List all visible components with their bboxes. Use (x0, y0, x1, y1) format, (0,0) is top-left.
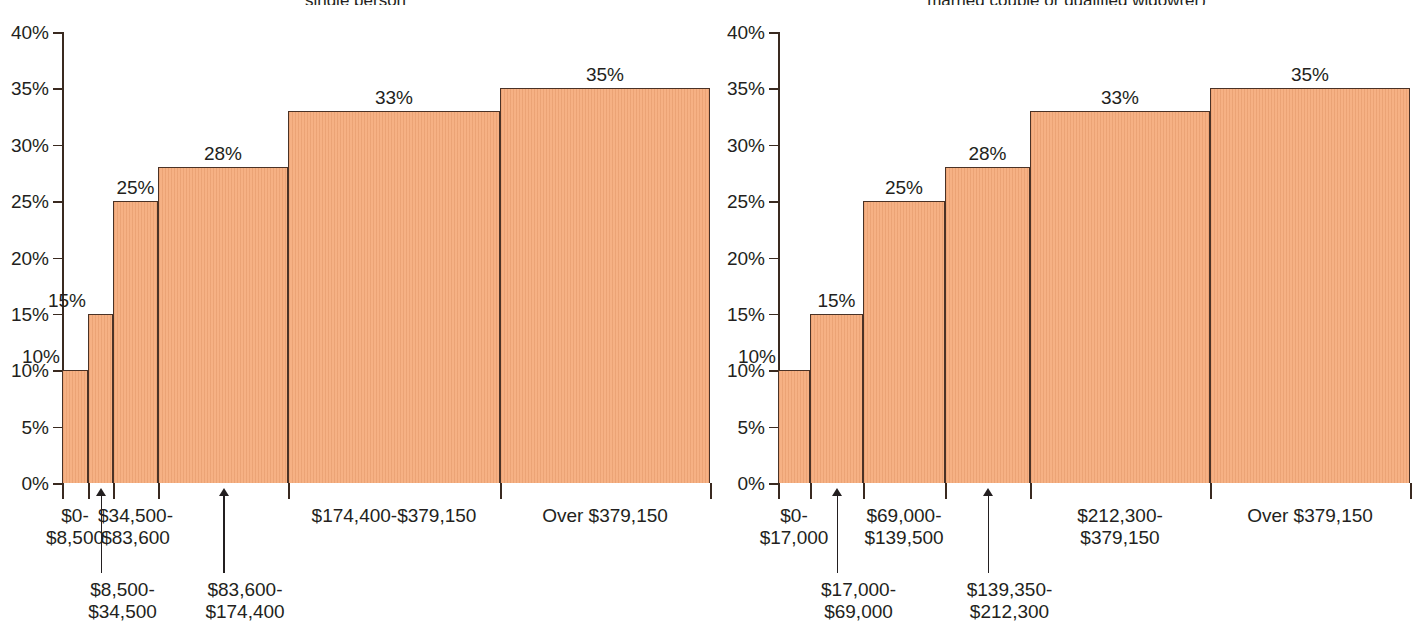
y-axis-tick (769, 427, 778, 429)
y-axis-label: 0% (22, 474, 49, 493)
y-axis-label: 35% (11, 79, 49, 98)
x-axis-tick (158, 483, 160, 499)
y-axis-label: 5% (738, 417, 765, 436)
category-label-line: $212,300- (1077, 505, 1163, 527)
y-axis-label: 0% (738, 474, 765, 493)
category-label-line: $174,400 (205, 601, 284, 623)
bar (945, 167, 1030, 483)
x-axis-category-label: $83,600-$174,400 (205, 579, 284, 624)
x-axis-tick (778, 483, 780, 499)
y-axis-label: 30% (727, 135, 765, 154)
bar (863, 201, 945, 483)
x-axis-tick (500, 483, 502, 499)
category-label-line: $174,400-$379,150 (312, 505, 477, 527)
y-axis-tick (53, 201, 62, 203)
x-axis-tick (1030, 483, 1032, 499)
y-axis-tick (769, 258, 778, 260)
bar (88, 314, 113, 483)
x-axis-category-label: $174,400-$379,150 (312, 505, 477, 527)
category-label-line: $69,000 (821, 601, 896, 623)
x-axis-tick (1210, 483, 1212, 499)
y-axis-tick (53, 258, 62, 260)
x-axis-tick (288, 483, 290, 499)
category-label-line: $379,150 (1077, 527, 1163, 549)
x-axis-category-label: $69,000-$139,500 (864, 505, 943, 550)
category-label-line: $17,000 (760, 527, 829, 549)
x-axis-category-label: $139,350-$212,300 (967, 579, 1053, 624)
category-label-line: $139,350- (967, 579, 1053, 601)
y-axis-tick (769, 370, 778, 372)
x-axis-category-label: Over $379,150 (1247, 505, 1373, 527)
label-leader-arrow-icon (223, 495, 225, 573)
y-axis-tick (769, 88, 778, 90)
bar-value-label: 25% (885, 178, 923, 197)
y-axis-label: 40% (11, 23, 49, 42)
y-axis-tick (53, 427, 62, 429)
x-axis-tick (945, 483, 947, 499)
bar (158, 167, 288, 483)
bar-value-label: 28% (968, 144, 1006, 163)
bar-value-label: 35% (1291, 65, 1329, 84)
y-axis-label: 25% (11, 192, 49, 211)
y-axis-label: 15% (11, 304, 49, 323)
y-axis-tick (769, 145, 778, 147)
y-axis-tick (53, 370, 62, 372)
plot-area-married-couple: 0%5%10%15%20%25%30%35%40%10%$0-$17,00015… (778, 32, 1410, 483)
category-label-line: $34,500 (88, 601, 157, 623)
x-axis-tick (810, 483, 812, 499)
x-axis-tick (863, 483, 865, 499)
x-axis-tick (113, 483, 115, 499)
category-label-line: $212,300 (967, 601, 1053, 623)
x-axis-category-label: $8,500-$34,500 (88, 579, 157, 624)
category-label-line: Over $379,150 (542, 505, 668, 527)
x-axis-tick (1410, 483, 1412, 499)
y-axis-tick (769, 483, 778, 485)
y-axis-tick (53, 145, 62, 147)
bar (500, 88, 710, 483)
bar-value-label: 15% (817, 291, 855, 310)
x-axis-category-label: $34,500-$83,600 (98, 505, 173, 550)
y-axis-tick (769, 32, 778, 34)
bar (113, 201, 158, 483)
category-label-line: $34,500- (98, 505, 173, 527)
bar (288, 111, 500, 483)
x-axis-category-label: $212,300-$379,150 (1077, 505, 1163, 550)
bar-value-label: 25% (116, 178, 154, 197)
x-axis-category-label: $0-$17,000 (760, 505, 829, 550)
x-axis-category-label: Over $379,150 (542, 505, 668, 527)
y-axis-label: 5% (22, 417, 49, 436)
y-axis-label: 30% (11, 135, 49, 154)
category-label-line: $69,000- (864, 505, 943, 527)
bar (62, 370, 88, 483)
y-axis-label: 25% (727, 192, 765, 211)
x-axis-category-label: $0-$8,500 (46, 505, 104, 550)
y-axis-label: 15% (727, 304, 765, 323)
y-axis-label: 35% (727, 79, 765, 98)
bar-value-label: 35% (586, 65, 624, 84)
y-axis-label: 40% (727, 23, 765, 42)
bar (778, 370, 810, 483)
bar (1030, 111, 1210, 483)
chart-married-couple: married couple or qualified widow(er) 0%… (711, 0, 1422, 636)
bar-value-label: 10% (22, 347, 60, 366)
label-leader-arrow-icon (837, 495, 839, 573)
chart-title-married-couple: married couple or qualified widow(er) (711, 0, 1422, 5)
y-axis-tick (53, 314, 62, 316)
x-axis-category-label: $17,000-$69,000 (821, 579, 896, 624)
chart-single-person: single person 0%5%10%15%20%25%30%35%40%1… (0, 0, 711, 636)
category-label-line: $8,500- (88, 579, 157, 601)
label-leader-arrow-icon (988, 495, 990, 573)
category-label-line: $0- (760, 505, 829, 527)
category-label-line: Over $379,150 (1247, 505, 1373, 527)
x-axis-tick (62, 483, 64, 499)
category-label-line: $139,500 (864, 527, 943, 549)
tax-bracket-chart-page: single person 0%5%10%15%20%25%30%35%40%1… (0, 0, 1422, 636)
bar (1210, 88, 1410, 483)
y-axis-label: 20% (11, 248, 49, 267)
y-axis-tick (769, 314, 778, 316)
category-label-line: $0- (46, 505, 104, 527)
chart-title-single-person: single person (0, 0, 711, 5)
bar-value-label: 33% (1101, 88, 1139, 107)
bar-value-label: 15% (48, 291, 86, 310)
plot-area-single-person: 0%5%10%15%20%25%30%35%40%10%$0-$8,50015%… (62, 32, 710, 483)
